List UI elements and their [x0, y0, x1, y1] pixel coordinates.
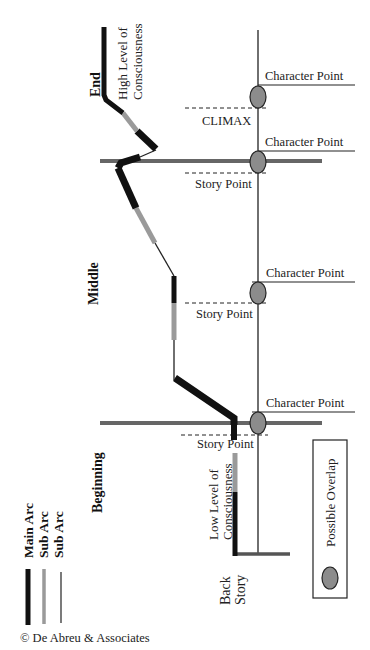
legend-sub-arc-label-1: Sub Arc	[36, 511, 51, 558]
overlap-oval-4	[250, 412, 266, 434]
story-point-label-1: Story Point	[195, 177, 252, 191]
section-label-beginning: Beginning	[90, 452, 105, 513]
section-label-middle: Middle	[86, 262, 101, 305]
story-point-label-3: Story Point	[197, 437, 254, 451]
overlap-oval-1	[250, 86, 266, 108]
low-level-label-line2: Consciousness	[220, 463, 235, 540]
story-point-label-2: Story Point	[196, 307, 253, 321]
section-label-end: End	[88, 72, 103, 97]
legend-overlap-label: Possible Overlap	[323, 459, 338, 547]
high-level-label-line1: High Level of	[115, 26, 130, 100]
high-level-label-line2: Consciousness	[130, 23, 145, 100]
character-point-label-1: Character Point	[265, 69, 344, 83]
story-arc-diagram: End Middle Beginning High Level of Consc…	[0, 0, 370, 650]
legend-main-arc-label: Main Arc	[21, 503, 36, 558]
low-level-label-line1: Low Level of	[206, 469, 221, 540]
legend-sub-arc-label-2: Sub Arc	[51, 511, 66, 558]
legend-overlap-oval	[322, 567, 338, 589]
climax-label: CLIMAX	[202, 114, 251, 128]
overlap-oval-3	[250, 282, 266, 304]
overlap-oval-2	[250, 151, 266, 173]
character-point-label-2: Character Point	[265, 135, 344, 149]
copyright-notice: © De Abreu & Associates	[20, 631, 150, 646]
character-point-label-3: Character Point	[266, 266, 345, 280]
back-story-label-line2: Story	[233, 575, 248, 605]
character-point-label-4: Character Point	[266, 396, 345, 410]
back-story-label-line1: Back	[218, 576, 233, 605]
